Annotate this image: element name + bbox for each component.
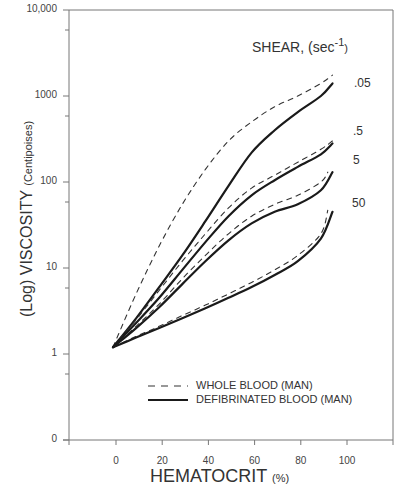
x-tick-label: 100 [332,455,362,466]
x-tick-label: 0 [101,455,131,466]
x-tick-label: 20 [147,455,177,466]
y-tick-label: 1000 [17,89,57,100]
shear-label-005: .05 [354,76,371,90]
shear-label-05: .5 [353,124,363,138]
legend-whole-blood: WHOLE BLOOD (MAN) [196,379,313,391]
chart-canvas [0,0,400,497]
curve-solid-shear-50 [113,212,333,347]
x-tick-label: 60 [240,455,270,466]
curves [113,75,333,347]
shear-annotation-title: SHEAR, (sec-1) [252,36,348,55]
legend-lines [148,386,188,400]
curve-dashed-shear-50 [113,210,328,347]
legend-defibrinated-blood: DEFIBRINATED BLOOD (MAN) [196,393,352,405]
x-axis-label: HEMATOCRIT (%) [150,466,289,487]
x-tick-label: 40 [193,455,223,466]
x-tick-label: 80 [286,455,316,466]
y-tick-label: 0 [17,433,57,444]
shear-label-5: 5 [353,153,360,167]
shear-label-50: 50 [352,196,365,210]
y-tick-label: 10,000 [17,3,57,14]
y-tick-label: 1 [17,347,57,358]
y-axis-label: (Log) VISCOSITY (Centipoises) [18,114,36,324]
